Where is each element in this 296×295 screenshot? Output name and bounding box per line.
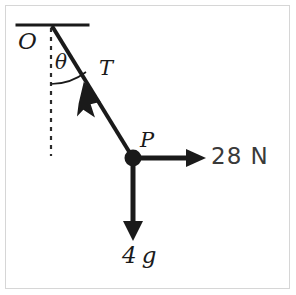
- pivot-label: O: [18, 30, 37, 53]
- tension-label: T: [99, 58, 113, 79]
- weight-arrowhead: [123, 221, 143, 241]
- weight-label: 4g: [122, 244, 156, 267]
- weight-number: 4: [122, 242, 137, 268]
- particle-dot: [125, 150, 142, 167]
- physics-force-diagram: O θ T P 28 N 4g: [0, 0, 296, 295]
- weight-symbol: g: [142, 242, 157, 268]
- horizontal-force-label: 28 N: [211, 145, 269, 168]
- horizontal-force-arrowhead: [186, 149, 206, 167]
- particle-label: P: [140, 130, 154, 151]
- angle-label: θ: [55, 52, 67, 72]
